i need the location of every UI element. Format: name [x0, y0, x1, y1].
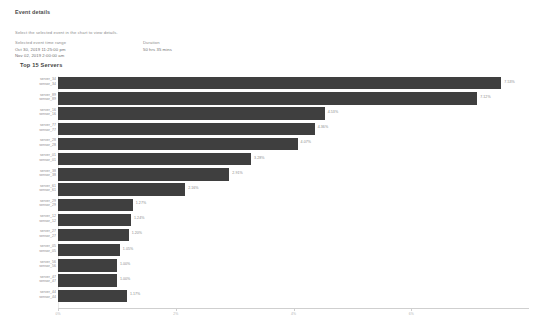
bar-category-label-line2: sensor_01: [12, 158, 56, 163]
bar-category-label: server_44sensor_44: [12, 290, 56, 299]
bar-row[interactable]: server_38sensor_382.91%: [0, 167, 535, 182]
selected-time-range-block: Selected event time range Oct 30, 2019 1…: [15, 40, 66, 60]
bar[interactable]: [58, 107, 325, 119]
bar-category-label: server_29sensor_29: [12, 199, 56, 208]
bar-value-label: 1.17%: [130, 292, 140, 297]
bar-row[interactable]: server_12sensor_121.24%: [0, 213, 535, 228]
bar-category-label: server_16sensor_16: [12, 108, 56, 117]
x-axis-tick-label: 4%: [291, 312, 296, 316]
bar-category-label-line1: server_56: [40, 260, 56, 264]
bar-value-label: 1.20%: [132, 231, 142, 236]
bar[interactable]: [58, 138, 298, 150]
x-axis-tick-label: 6%: [409, 312, 414, 316]
bar-track: [58, 290, 529, 302]
x-axis-tick: [294, 308, 295, 311]
top-servers-bar-chart: server_34sensor_347.53%server_89sensor_8…: [0, 76, 535, 328]
hint-text: Select the selected event in the chart t…: [15, 30, 118, 36]
bar-track: [58, 138, 529, 150]
bar-row[interactable]: server_34sensor_347.53%: [0, 76, 535, 91]
bar-track: [58, 77, 529, 89]
bar-row[interactable]: server_89sensor_897.12%: [0, 91, 535, 106]
bar-row[interactable]: server_44sensor_441.17%: [0, 289, 535, 304]
bar-value-label: 1.05%: [123, 247, 133, 252]
bar-category-label-line2: sensor_56: [12, 264, 56, 269]
x-axis-tick-label: 0%: [55, 312, 60, 316]
bar[interactable]: [58, 199, 133, 211]
bar-value-label: 7.53%: [504, 80, 514, 85]
bar-category-label-line1: server_28: [40, 138, 56, 142]
bar-row[interactable]: server_61sensor_612.16%: [0, 182, 535, 197]
bar-category-label-line1: server_29: [40, 199, 56, 203]
bar-category-label-line1: server_01: [40, 153, 56, 157]
bar[interactable]: [58, 77, 501, 89]
bar-category-label-line2: sensor_12: [12, 219, 56, 224]
bar-value-label: 4.07%: [301, 140, 311, 145]
bar-category-label: server_01sensor_01: [12, 153, 56, 162]
bar-row[interactable]: server_01sensor_013.28%: [0, 152, 535, 167]
bar-category-label: server_61sensor_61: [12, 184, 56, 193]
meta-row: Selected event time range Oct 30, 2019 1…: [0, 40, 535, 66]
bar-row[interactable]: server_27sensor_271.20%: [0, 228, 535, 243]
bar[interactable]: [58, 259, 117, 271]
bar-category-label-line2: sensor_28: [12, 143, 56, 148]
bar-track: [58, 229, 529, 241]
bar-track: [58, 199, 529, 211]
bar-category-label-line1: server_77: [40, 123, 56, 127]
bar-row[interactable]: server_29sensor_291.27%: [0, 198, 535, 213]
bar-value-label: 7.12%: [480, 95, 490, 100]
duration-label: Duration: [143, 40, 172, 46]
bar[interactable]: [58, 92, 477, 104]
bar-row[interactable]: server_16sensor_164.53%: [0, 106, 535, 121]
bar-category-label-line2: sensor_77: [12, 128, 56, 133]
bar[interactable]: [58, 244, 120, 256]
x-axis-tick: [58, 308, 59, 311]
bar-category-label-line1: server_89: [40, 93, 56, 97]
chart-title: Top 15 Servers: [20, 62, 63, 68]
bar-value-label: 1.27%: [136, 201, 146, 206]
bar[interactable]: [58, 274, 117, 286]
bar-track: [58, 107, 529, 119]
bar-category-label-line1: server_47: [40, 275, 56, 279]
bar[interactable]: [58, 214, 131, 226]
bar-category-label-line1: server_44: [40, 290, 56, 294]
bar-row[interactable]: server_28sensor_284.07%: [0, 137, 535, 152]
x-axis-tick-label: 2%: [173, 312, 178, 316]
bar-track: [58, 92, 529, 104]
bar-category-label-line1: server_12: [40, 214, 56, 218]
bar-track: [58, 168, 529, 180]
bar-category-label-line1: server_38: [40, 169, 56, 173]
bar-category-label-line2: sensor_05: [12, 249, 56, 254]
bar-value-label: 1.00%: [120, 277, 130, 282]
duration-value: 50 hrs 35 mins: [143, 47, 172, 53]
bar[interactable]: [58, 168, 229, 180]
bar-category-label-line2: sensor_27: [12, 234, 56, 239]
bar[interactable]: [58, 123, 315, 135]
bar[interactable]: [58, 229, 129, 241]
bar-row[interactable]: server_05sensor_051.05%: [0, 243, 535, 258]
bar-value-label: 1.00%: [120, 262, 130, 267]
bar-category-label: server_12sensor_12: [12, 214, 56, 223]
x-axis-tick: [411, 308, 412, 311]
bar[interactable]: [58, 290, 127, 302]
bar-category-label-line1: server_16: [40, 108, 56, 112]
chart-plot-area: server_34sensor_347.53%server_89sensor_8…: [0, 76, 535, 308]
bar-category-label-line2: sensor_29: [12, 203, 56, 208]
time-range-end: Nov 02, 2019 2:00:00 am: [15, 53, 66, 59]
bar-track: [58, 183, 529, 195]
bar-category-label: server_56sensor_56: [12, 260, 56, 269]
bar-row[interactable]: server_56sensor_561.00%: [0, 258, 535, 273]
bar-category-label-line2: sensor_34: [12, 82, 56, 87]
bar-category-label-line2: sensor_61: [12, 188, 56, 193]
bar-category-label: server_28sensor_28: [12, 138, 56, 147]
bar-category-label-line1: server_05: [40, 244, 56, 248]
bar-row[interactable]: server_77sensor_774.36%: [0, 122, 535, 137]
bar-category-label-line1: server_27: [40, 229, 56, 233]
bar-category-label-line2: sensor_47: [12, 279, 56, 284]
duration-block: Duration 50 hrs 35 mins: [143, 40, 172, 53]
bar[interactable]: [58, 183, 185, 195]
bar[interactable]: [58, 153, 251, 165]
event-details-page: Event details Select the selected event …: [0, 0, 535, 330]
bar-value-label: 4.53%: [328, 110, 338, 115]
bar-category-label-line1: server_61: [40, 184, 56, 188]
bar-row[interactable]: server_47sensor_471.00%: [0, 273, 535, 288]
